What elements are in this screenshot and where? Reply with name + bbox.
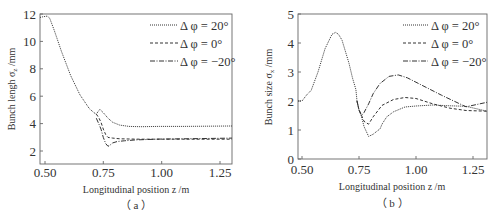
y-tick-label: 8 — [30, 61, 37, 76]
figure: 2 4 6 8 10 12 0.50 0.75 1.00 1.25 Longit… — [0, 0, 495, 217]
x-tick-label: 1.00 — [150, 165, 173, 180]
legend-label: Δ φ = −20° — [180, 55, 236, 69]
x-tick-label: 1.25 — [462, 162, 485, 177]
caption-a: （ a ） — [120, 199, 152, 211]
legend-label: Δ φ = 0° — [431, 37, 473, 51]
y-tick-label: 4 — [30, 116, 37, 131]
y-tick-label: 2 — [288, 94, 295, 109]
panel-b: 0 1 2 3 4 5 0.50 0.75 1.00 1.25 Longitud… — [263, 7, 487, 210]
y-tick-labels-b: 0 1 2 3 4 5 — [288, 7, 295, 167]
panel-a: 2 4 6 8 10 12 0.50 0.75 1.00 1.25 Longit… — [6, 7, 236, 212]
x-tick-label: 0.50 — [291, 162, 314, 177]
y-tick-label: 5 — [288, 7, 295, 22]
legend-b: Δ φ = 20° Δ φ = 0° Δ φ = −20° — [403, 19, 487, 69]
x-tick-label: 0.50 — [34, 165, 57, 180]
x-axis-label-b: Longitudinal position z /m — [339, 181, 446, 192]
y-axis-label-a: Bunch lengh σz /mm — [6, 47, 19, 130]
legend-label: Δ φ = 20° — [431, 19, 480, 33]
y-tick-label: 10 — [23, 34, 36, 49]
legend-label: Δ φ = −20° — [431, 55, 487, 69]
y-tick-label: 12 — [23, 7, 36, 22]
x-tick-label: 0.75 — [348, 162, 371, 177]
legend-label: Δ φ = 0° — [180, 37, 222, 51]
legend-label: Δ φ = 20° — [180, 19, 229, 33]
x-axis-label-a: Longitudinal position z /m — [83, 184, 190, 195]
legend-a: Δ φ = 20° Δ φ = 0° Δ φ = −20° — [150, 19, 236, 69]
x-tick-label: 1.00 — [405, 162, 428, 177]
x-tick-label: 0.75 — [92, 165, 115, 180]
series-b-dphi-0 — [357, 98, 487, 125]
caption-b: （ b ） — [376, 197, 409, 209]
x-tick-label: 1.25 — [209, 165, 232, 180]
y-tick-label: 3 — [288, 65, 295, 80]
y-tick-label: 6 — [30, 89, 37, 104]
y-ticks-b — [298, 14, 301, 159]
y-axis-label-b: Bunch size σx /mm — [263, 49, 276, 126]
series-b-dphi-neg20 — [357, 75, 487, 115]
y-tick-label: 2 — [30, 144, 37, 159]
x-tick-labels-a: 0.50 0.75 1.00 1.25 — [34, 165, 232, 180]
y-tick-labels-a: 2 4 6 8 10 12 — [23, 7, 37, 159]
x-tick-labels-b: 0.50 0.75 1.00 1.25 — [291, 162, 485, 177]
series-a-dphi-neg20 — [96, 118, 232, 146]
y-tick-label: 1 — [288, 123, 295, 138]
y-tick-label: 4 — [288, 36, 295, 51]
series-a-dphi-20 — [40, 16, 232, 127]
